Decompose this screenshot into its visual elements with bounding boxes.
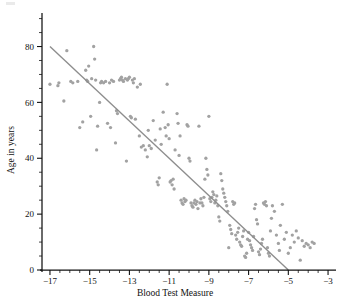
x-tick-label: −13 [122, 276, 137, 286]
data-point [215, 194, 218, 197]
data-point [265, 204, 268, 207]
data-point [171, 178, 174, 181]
data-point [201, 204, 204, 207]
y-axis-title: Age in years [6, 126, 16, 174]
data-point [162, 111, 165, 114]
data-point [94, 78, 97, 81]
data-point [285, 231, 288, 234]
data-point [264, 200, 267, 203]
data-point [233, 201, 236, 204]
data-point [240, 245, 243, 248]
data-point [205, 168, 208, 171]
data-point [191, 206, 194, 209]
data-point [207, 115, 210, 118]
data-point [164, 126, 167, 129]
data-point [81, 120, 84, 123]
data-point [220, 179, 223, 182]
data-point [211, 190, 214, 193]
data-point [271, 204, 274, 207]
data-point [144, 148, 147, 151]
data-point [197, 124, 200, 127]
data-point [177, 154, 180, 157]
data-point [179, 199, 182, 202]
data-point [125, 159, 128, 162]
data-point [227, 246, 230, 249]
data-point [209, 200, 212, 203]
data-point [221, 187, 224, 190]
y-tick-label: 20 [25, 209, 35, 219]
data-point [277, 242, 280, 245]
data-point [96, 124, 99, 127]
data-point [235, 238, 238, 241]
data-point [158, 176, 161, 179]
data-point [289, 246, 292, 249]
data-point [222, 192, 225, 195]
data-point [133, 77, 136, 80]
corner-artifact [6, 2, 15, 5]
data-point [132, 81, 135, 84]
data-point [178, 134, 181, 137]
data-point [206, 173, 209, 176]
data-point [248, 239, 251, 242]
data-point [287, 252, 290, 255]
data-point [176, 122, 179, 125]
plot-background [0, 0, 342, 305]
data-point [136, 85, 139, 88]
y-tick-label: 80 [25, 42, 35, 52]
data-point [237, 226, 240, 229]
data-point [256, 222, 259, 225]
data-point [114, 141, 117, 144]
data-point [199, 197, 202, 200]
data-point [84, 69, 87, 72]
data-point [244, 256, 247, 259]
data-point [204, 157, 207, 160]
data-point [142, 144, 145, 147]
data-point [106, 122, 109, 125]
data-point [257, 250, 260, 253]
data-point [275, 233, 278, 236]
data-point [116, 112, 119, 115]
data-point [241, 235, 244, 238]
data-point [212, 193, 215, 196]
data-point [228, 224, 231, 227]
data-point [225, 204, 228, 207]
data-point [281, 203, 284, 206]
data-point [173, 148, 176, 151]
data-point [196, 207, 199, 210]
data-point [269, 229, 272, 232]
data-point [236, 231, 239, 234]
data-point [170, 183, 173, 186]
data-point [245, 252, 248, 255]
data-point [291, 233, 294, 236]
data-point [273, 210, 276, 213]
data-point [270, 217, 273, 220]
data-point [268, 254, 271, 257]
data-point [98, 101, 101, 104]
data-point [186, 124, 189, 127]
data-point [128, 76, 131, 79]
data-point [78, 126, 81, 129]
data-point [261, 238, 264, 241]
data-point [112, 80, 115, 83]
data-point [95, 148, 98, 151]
scatter-plot-figure: −17−15−13−11−9−7−5−3020406080 Blood Test… [0, 0, 342, 305]
x-axis-title: Blood Test Measure [137, 288, 213, 298]
data-point [303, 245, 306, 248]
data-point [283, 238, 286, 241]
x-tick-label: −3 [323, 276, 333, 286]
data-point [219, 172, 222, 175]
data-point [188, 159, 191, 162]
data-point [138, 134, 141, 137]
data-point [160, 143, 163, 146]
data-point [313, 242, 316, 245]
x-tick-label: −7 [244, 276, 254, 286]
data-point [147, 129, 150, 132]
data-point [57, 81, 60, 84]
data-point [229, 228, 232, 231]
data-point [65, 49, 68, 52]
plot-canvas: −17−15−13−11−9−7−5−3020406080 Blood Test… [0, 0, 342, 305]
data-point [93, 57, 96, 60]
data-point [154, 138, 157, 141]
data-point [166, 123, 169, 126]
data-point [62, 99, 65, 102]
